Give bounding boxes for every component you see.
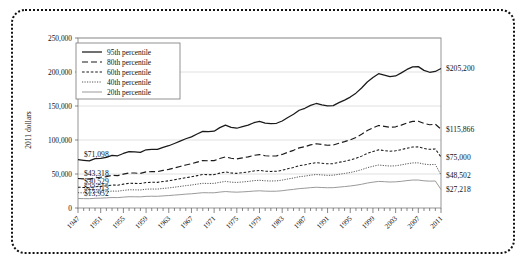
y-tick-label-0: 0 [68, 204, 72, 213]
x-tick-label-2007: 2007 [406, 214, 422, 230]
end-value-label-95th-percentile: $205,200 [446, 64, 475, 73]
x-tick-label-1975: 1975 [224, 214, 240, 230]
x-tick-label-1967: 1967 [179, 214, 195, 230]
start-value-label-20th-percentile: $13,952 [84, 189, 109, 198]
x-tick-label-1995: 1995 [338, 214, 354, 230]
end-value-label-80th-percentile: $115,866 [446, 125, 474, 134]
legend-label-95th-percentile: 95th percentile [107, 48, 152, 57]
x-tick-label-2011: 2011 [429, 214, 445, 230]
end-value-label-60th-percentile: $75,000 [446, 153, 471, 162]
legend-label-40th-percentile: 40th percentile [107, 78, 152, 87]
y-tick-label-250000: 250,000 [48, 34, 72, 43]
x-tick-label-1971: 1971 [202, 214, 218, 230]
chart-plot-container: 050,000100,000150,000200,000250,000 1947… [0, 0, 528, 265]
legend-label-80th-percentile: 80th percentile [107, 58, 152, 67]
x-tick-label-1979: 1979 [247, 214, 263, 230]
y-tick-label-100000: 100,000 [48, 136, 72, 145]
line-chart-svg: 050,000100,000150,000200,000250,000 1947… [0, 0, 528, 265]
legend-label-60th-percentile: 60th percentile [107, 68, 152, 77]
x-tick-label-1951: 1951 [88, 214, 104, 230]
x-tick-label-1991: 1991 [315, 214, 331, 230]
start-value-label-95th-percentile: $71,098 [84, 150, 109, 159]
legend-label-20th-percentile: 20th percentile [107, 88, 152, 97]
x-tick-label-1947: 1947 [66, 214, 82, 230]
x-tick-label-2003: 2003 [383, 214, 399, 230]
x-tick-label-1955: 1955 [111, 214, 127, 230]
series-line-80th-percentile [78, 121, 441, 179]
start-value-label-80th-percentile: $43,318 [84, 169, 109, 178]
chart-figure: 050,000100,000150,000200,000250,000 1947… [0, 0, 528, 265]
y-tick-label-200000: 200,000 [48, 68, 72, 77]
x-axis-ticks-group: 1947195119551959196319671971197519791983… [66, 208, 445, 231]
x-tick-label-1983: 1983 [270, 214, 286, 230]
x-tick-label-1959: 1959 [134, 214, 150, 230]
chart-legend: 95th percentile80th percentile60th perce… [76, 43, 180, 99]
y-tick-label-50000: 50,000 [52, 170, 73, 179]
series-line-40th-percentile [78, 163, 441, 193]
y-tick-label-150000: 150,000 [48, 102, 72, 111]
x-tick-label-1999: 1999 [361, 214, 377, 230]
end-value-label-40th-percentile: $48,502 [446, 171, 471, 180]
y-axis-title: 2011 dollars [24, 111, 33, 149]
x-tick-label-1963: 1963 [156, 214, 172, 230]
x-tick-label-1987: 1987 [292, 214, 308, 230]
y-axis-ticks-group: 050,000100,000150,000200,000250,000 [48, 34, 78, 213]
end-value-label-20th-percentile: $27,218 [446, 185, 471, 194]
